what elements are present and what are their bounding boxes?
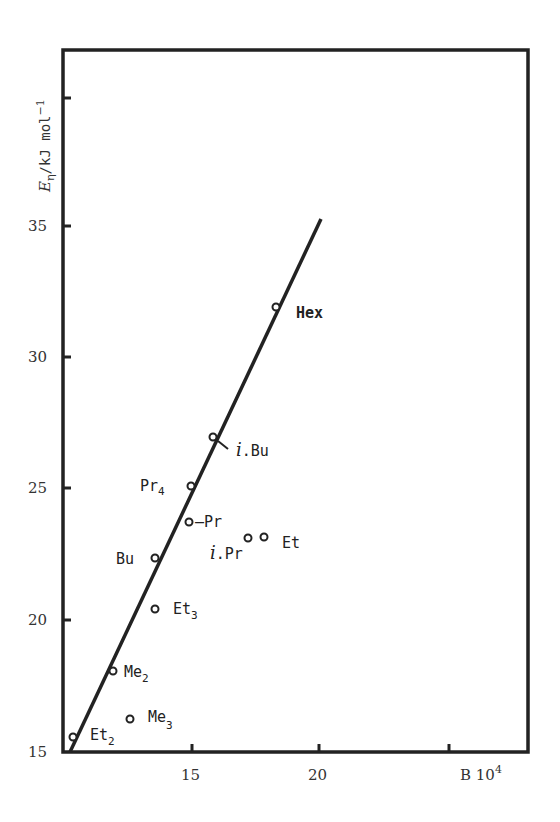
chart-canvas: 35 30 25 20 15 15 20 B 104 Eη/kJ mol−1 H…	[0, 0, 560, 822]
label-pr4: Pr4	[140, 477, 165, 498]
point-et2	[70, 734, 77, 741]
y-tick-label-20: 20	[28, 611, 47, 629]
label-ipr: i.Pr	[210, 542, 243, 563]
point-pr	[186, 519, 193, 526]
y-tick-label-35: 35	[28, 217, 47, 235]
data-points	[70, 304, 280, 741]
label-bu: Bu	[116, 550, 134, 568]
label-hex: Hex	[296, 304, 323, 322]
fit-line	[70, 219, 321, 752]
label-et2: Et2	[90, 726, 115, 748]
point-ibu	[210, 434, 217, 441]
label-pr: –Pr	[195, 513, 222, 531]
label-et: Et	[282, 534, 300, 552]
y-tick-label-30: 30	[28, 348, 47, 366]
point-et	[261, 534, 268, 541]
y-axis-label: Eη/kJ mol−1	[34, 99, 57, 193]
y-tick-label-15: 15	[28, 743, 47, 761]
point-ipr	[245, 535, 252, 542]
point-me2	[110, 668, 117, 675]
x-tick-label-20: 20	[308, 766, 327, 784]
plot-frame	[63, 50, 528, 752]
ibu-leader-line	[218, 441, 228, 449]
point-me3	[127, 716, 134, 723]
label-ibu: i.Bu	[236, 439, 269, 460]
x-tick-label-15: 15	[181, 766, 200, 784]
x-axis-label: B 104	[460, 763, 502, 784]
point-hex	[273, 304, 280, 311]
label-et3: Et3	[173, 600, 198, 622]
point-bu	[152, 555, 159, 562]
label-me2: Me2	[124, 663, 149, 685]
label-me3: Me3	[148, 708, 173, 732]
point-et3	[152, 606, 159, 613]
point-pr4	[188, 483, 195, 490]
y-tick-label-25: 25	[28, 479, 47, 497]
